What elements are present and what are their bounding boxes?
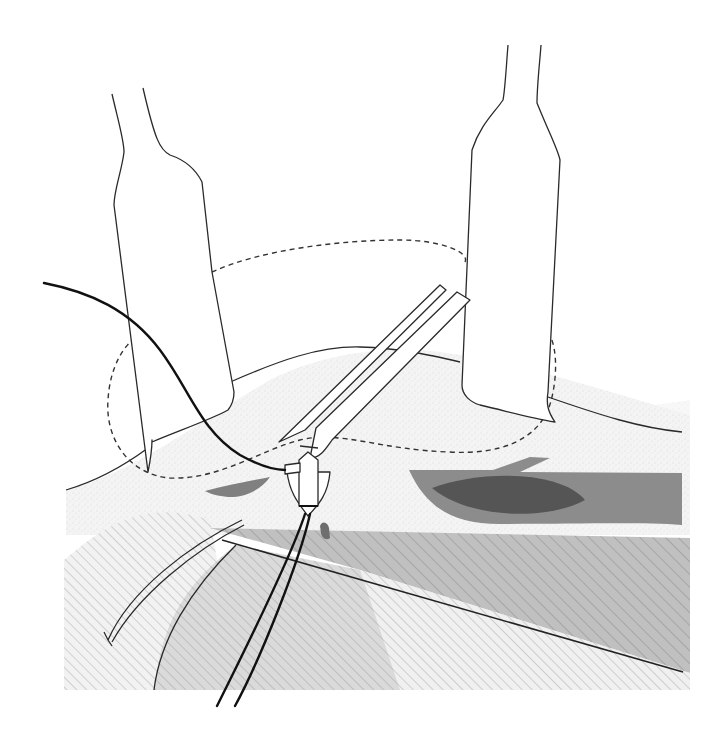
surgical-illustration [0,0,722,746]
right-retractor [462,45,560,422]
left-retractor [112,88,234,472]
